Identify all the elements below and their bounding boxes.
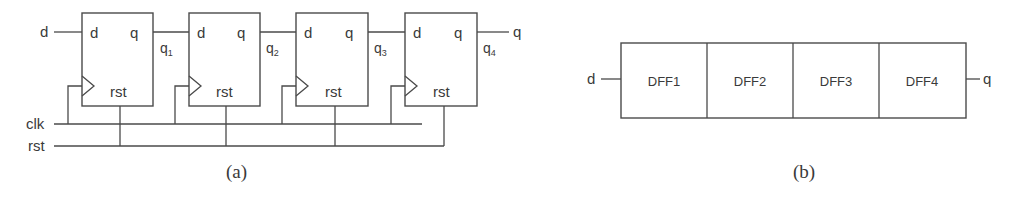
cell-dff4: DFF4 bbox=[906, 74, 939, 89]
ff1-rst-port: rst bbox=[110, 83, 127, 100]
q2-label: q2 bbox=[266, 40, 279, 58]
block-output-q-label: q bbox=[983, 70, 991, 87]
ff2-d-port: d bbox=[197, 24, 205, 41]
clk-tap-1 bbox=[68, 86, 82, 124]
ff1-d-port: d bbox=[90, 24, 98, 41]
q1-label: q1 bbox=[160, 40, 173, 58]
input-d-label: d bbox=[40, 23, 48, 40]
q4-label: q4 bbox=[483, 40, 496, 58]
ff4-rst-port: rst bbox=[433, 83, 450, 100]
ff4-q-port: q bbox=[454, 24, 462, 41]
ff2-rst-port: rst bbox=[216, 83, 233, 100]
flip-flop-4: d q rst bbox=[391, 13, 477, 146]
caption-b: (b) bbox=[793, 161, 815, 183]
ff1-q-port: q bbox=[130, 24, 138, 41]
output-q-label: q bbox=[513, 23, 521, 40]
shift-register-figure: clk rst d d q rst q1 d q rst q2 bbox=[0, 0, 1023, 204]
ff3-rst-port: rst bbox=[325, 83, 342, 100]
figure-b-block-diagram: d DFF1 DFF2 DFF3 DFF4 q (b) bbox=[587, 43, 991, 183]
clk-label: clk bbox=[26, 115, 45, 132]
cell-dff1: DFF1 bbox=[648, 74, 681, 89]
cell-dff3: DFF3 bbox=[820, 74, 853, 89]
block-input-d-label: d bbox=[587, 70, 595, 87]
ff2-q-port: q bbox=[237, 24, 245, 41]
clk-tap-2 bbox=[175, 86, 189, 124]
ff4-d-port: d bbox=[413, 24, 421, 41]
caption-a: (a) bbox=[226, 161, 247, 183]
flip-flop-1: d q rst bbox=[68, 13, 153, 146]
rst-label: rst bbox=[28, 137, 45, 154]
figure-a-schematic: clk rst d d q rst q1 d q rst q2 bbox=[26, 13, 521, 183]
flip-flop-3: d q rst bbox=[282, 13, 368, 146]
q3-label: q3 bbox=[374, 40, 387, 58]
flip-flop-2: d q rst bbox=[175, 13, 260, 146]
clk-tap-4 bbox=[391, 86, 405, 124]
clk-tap-3 bbox=[282, 86, 296, 124]
ff3-q-port: q bbox=[345, 24, 353, 41]
cell-dff2: DFF2 bbox=[734, 74, 767, 89]
ff3-d-port: d bbox=[304, 24, 312, 41]
